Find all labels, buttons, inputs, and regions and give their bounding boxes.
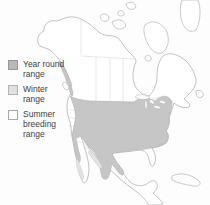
southampton-island xyxy=(145,56,151,61)
winter-label: Winter range xyxy=(23,84,65,104)
year-round-label: Year round range xyxy=(23,59,65,79)
arctic-islet xyxy=(118,11,124,16)
map-legend: Year round range Winter range Summer bre… xyxy=(8,59,65,139)
winter-swatch xyxy=(8,85,18,95)
baffin-island xyxy=(144,22,168,54)
greenland xyxy=(180,0,200,31)
legend-item-summer: Summer breeding range xyxy=(8,109,65,139)
banks-island xyxy=(100,14,109,22)
ellesmere-island xyxy=(126,2,136,9)
newfoundland xyxy=(196,90,203,97)
legend-item-winter: Winter range xyxy=(8,84,65,104)
cuba xyxy=(172,174,200,186)
summer-breeding-swatch xyxy=(8,110,18,120)
summer-breeding-label: Summer breeding range xyxy=(23,109,65,139)
year-round-swatch xyxy=(8,60,18,70)
victoria-island xyxy=(112,20,126,29)
legend-item-year-round: Year round range xyxy=(8,59,65,79)
